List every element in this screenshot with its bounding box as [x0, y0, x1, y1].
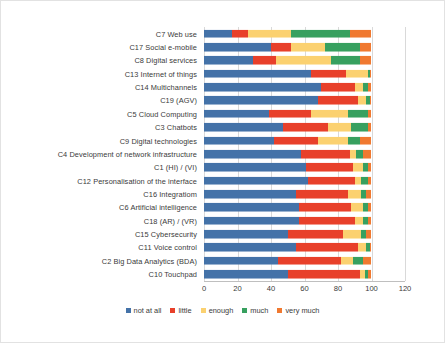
bar-segment-not-at-all [204, 203, 299, 212]
bar-segment-enough [341, 256, 353, 265]
chart-row: C9 Digital technologies [1, 134, 445, 147]
bar-segment-very-much [368, 83, 371, 92]
bar-segment-little [306, 163, 353, 172]
bar-segment-little [278, 256, 342, 265]
bar-segment-very-much [368, 163, 371, 172]
bar-segment-not-at-all [204, 176, 308, 185]
bar-segment-enough [346, 69, 368, 78]
bar-segment-much [351, 123, 368, 132]
legend-swatch-icon [126, 308, 131, 313]
chart-row: C10 Touchpad [1, 267, 445, 280]
bar-segment-very-much [370, 96, 372, 105]
chart-row: C2 Big Data Analytics (BDA) [1, 254, 445, 267]
bar-segment-much [291, 29, 350, 38]
stacked-bar [204, 256, 372, 265]
bar-segment-not-at-all [204, 163, 306, 172]
bar-segment-enough [343, 230, 361, 239]
bar-segment-not-at-all [204, 83, 321, 92]
bar-segment-enough [351, 203, 363, 212]
bar-segment-enough [311, 110, 348, 119]
bar-segment-enough [358, 96, 366, 105]
category-label: C17 Social e-mobile [129, 43, 197, 52]
category-label: C18 (AR) / (VR) [144, 216, 197, 225]
bar-segment-little [274, 136, 318, 145]
bar-segment-little [318, 96, 358, 105]
bar-segment-enough [355, 83, 363, 92]
bar-segment-little [271, 43, 291, 52]
bar-segment-much [325, 43, 360, 52]
bar-segment-little [296, 190, 348, 199]
stacked-bar [204, 83, 372, 92]
legend-item[interactable]: very much [277, 306, 319, 315]
chart-row: C8 Digital services [1, 54, 445, 67]
chart-row: C3 Chatbots [1, 121, 445, 134]
bar-segment-very-much [363, 150, 371, 159]
stacked-bar [204, 136, 372, 145]
chart-legend: not at alllittleenoughmuchvery much [1, 306, 444, 315]
bar-segment-enough [353, 163, 363, 172]
bar-segment-very-much [368, 176, 371, 185]
bar-segment-enough [355, 176, 362, 185]
category-label: C12 Personalisation of the interface [77, 176, 197, 185]
x-axis-ticks: 020406080100120 [204, 284, 405, 298]
bar-segment-very-much [366, 190, 371, 199]
x-tick-label: 40 [267, 284, 275, 293]
bar-segment-little [299, 216, 354, 225]
bar-segment-not-at-all [204, 230, 288, 239]
legend-label: very much [285, 306, 319, 315]
bar-segment-very-much [366, 230, 371, 239]
bar-segment-much [331, 56, 359, 65]
stacked-bar [204, 163, 372, 172]
legend-item[interactable]: not at all [126, 306, 162, 315]
bar-segment-enough [291, 43, 325, 52]
bar-segment-very-much [368, 216, 371, 225]
bar-segment-enough [328, 123, 351, 132]
stacked-bar [204, 69, 372, 78]
bar-rows: C7 Web useC17 Social e-mobileC8 Digital … [1, 27, 445, 281]
bar-segment-enough [248, 29, 292, 38]
stacked-bar [204, 110, 372, 119]
x-tick-label: 60 [300, 284, 308, 293]
category-label: C9 Digital technologies [120, 136, 197, 145]
bar-segment-not-at-all [204, 110, 269, 119]
legend-label: not at all [134, 306, 162, 315]
stacked-bar [204, 56, 372, 65]
bar-segment-enough [348, 190, 361, 199]
bar-segment-very-much [368, 123, 371, 132]
bar-segment-little [311, 69, 346, 78]
bar-segment-little [288, 230, 343, 239]
bar-segment-very-much [370, 243, 372, 252]
chart-row: C14 Multichannels [1, 80, 445, 93]
legend-item[interactable]: enough [201, 306, 234, 315]
chart-row: C5 Cloud Computing [1, 107, 445, 120]
bar-segment-very-much [368, 203, 371, 212]
bar-segment-not-at-all [204, 136, 274, 145]
legend-item[interactable]: little [170, 306, 191, 315]
bar-segment-little [232, 29, 247, 38]
stacked-bar [204, 96, 372, 105]
chart-row: C6 Artificial intelligence [1, 201, 445, 214]
category-label: C6 Artificial intelligence [119, 203, 197, 212]
category-label: C19 (AGV) [160, 96, 197, 105]
bar-segment-little [269, 110, 311, 119]
bar-segment-not-at-all [204, 43, 271, 52]
bar-segment-much [348, 136, 360, 145]
bar-segment-not-at-all [204, 216, 299, 225]
x-tick-label: 20 [233, 284, 241, 293]
bar-segment-not-at-all [204, 243, 296, 252]
chart-row: C11 Voice control [1, 241, 445, 254]
bar-segment-not-at-all [204, 69, 311, 78]
bar-segment-much [353, 256, 363, 265]
category-label: C15 Cybersecurity [135, 230, 197, 239]
bar-segment-little [301, 150, 350, 159]
bar-segment-very-much [368, 110, 371, 119]
legend-label: little [178, 306, 191, 315]
bar-segment-enough [276, 56, 331, 65]
stacked-bar [204, 243, 372, 252]
stacked-bar [204, 43, 372, 52]
category-label: C16 Integratiom [143, 189, 197, 198]
bar-segment-enough [355, 216, 363, 225]
legend-item[interactable]: much [242, 306, 268, 315]
x-tick-label: 0 [202, 284, 206, 293]
chart-row: C13 Internet of things [1, 67, 445, 80]
